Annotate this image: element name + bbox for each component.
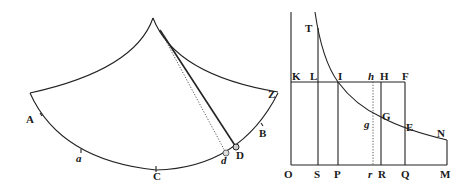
label-M: M xyxy=(440,168,451,180)
diagram-canvas: A a C d D B Z T K L I h H F g G E N O S … xyxy=(0,0,469,188)
cycloid-pendulum-figure: A a C d D B Z xyxy=(26,18,278,182)
label-Z: Z xyxy=(268,88,275,100)
label-O: O xyxy=(284,168,293,180)
label-T: T xyxy=(305,22,313,34)
label-N: N xyxy=(437,127,445,139)
pendulum-string xyxy=(160,30,236,147)
label-H: H xyxy=(380,70,389,82)
label-D: D xyxy=(236,149,244,161)
label-I: I xyxy=(338,70,342,82)
dotted-pendulum xyxy=(160,30,226,153)
label-C: C xyxy=(153,170,161,182)
label-S: S xyxy=(314,168,320,180)
label-L: L xyxy=(310,70,317,82)
label-d: d xyxy=(221,154,227,166)
label-R: R xyxy=(378,168,387,180)
right-cheek-curve xyxy=(153,18,278,92)
hyperbola-figure: T K L I h H F g G E N O S P r R Q M xyxy=(284,12,451,180)
label-A: A xyxy=(26,113,34,125)
label-a: a xyxy=(76,152,82,164)
left-cheek-curve xyxy=(30,18,153,93)
label-h: h xyxy=(368,70,374,82)
label-G: G xyxy=(382,110,391,122)
label-B: B xyxy=(259,127,267,139)
label-E: E xyxy=(406,121,413,133)
label-r: r xyxy=(368,168,373,180)
label-Q: Q xyxy=(401,168,410,180)
tick-B xyxy=(261,123,263,126)
label-F: F xyxy=(402,70,409,82)
label-g: g xyxy=(363,118,370,130)
label-P: P xyxy=(334,168,341,180)
label-K: K xyxy=(292,70,301,82)
